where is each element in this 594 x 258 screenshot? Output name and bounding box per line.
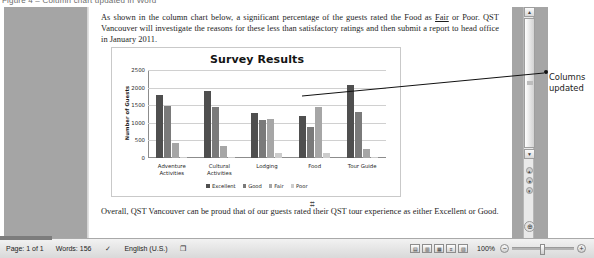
chart-x-tick-label: Food	[291, 163, 339, 170]
chart-bar	[323, 153, 330, 158]
paragraph-top-part1: As shown in the column chart below, a si…	[101, 13, 435, 22]
macro-recording-icon[interactable]: ❐	[174, 245, 192, 253]
view-button-full-screen-reading[interactable]: ▥	[422, 244, 432, 253]
chart-y-axis-title: Number of Guests	[124, 78, 130, 148]
select-browse-object-icon[interactable]: ●	[526, 177, 533, 184]
chart-legend-swatch	[243, 184, 247, 188]
view-button-web-layout[interactable]: ▦	[434, 244, 444, 253]
chart-bar-group	[196, 70, 244, 158]
chart-x-tick-label: Lodging	[243, 163, 291, 170]
chart-legend-swatch	[269, 184, 273, 188]
chart-legend-label: Excellent	[212, 183, 236, 189]
view-mode-buttons[interactable]: ▤▥▦≡▧	[410, 244, 472, 253]
chart-legend-label: Poor	[296, 183, 307, 189]
chart-bar	[172, 143, 179, 158]
chart-bar	[259, 120, 266, 158]
status-language[interactable]: English (U.S.)	[118, 245, 173, 252]
paragraph-top-underlined: Fair	[435, 13, 449, 22]
chart-legend-item: Fair	[269, 183, 284, 189]
chart-x-tick-label: Tour Guide	[338, 163, 386, 170]
chart-bar	[156, 95, 163, 158]
chart-legend-label: Good	[248, 183, 262, 189]
chart-bar	[180, 157, 187, 158]
proofing-check-icon: ✓	[103, 244, 112, 253]
status-bar-left-tab	[0, 236, 52, 240]
scrollbar-end-button-icon[interactable]: ⊕	[524, 221, 535, 232]
chart-bar	[315, 107, 322, 158]
proofing-errors-icon[interactable]: ✓	[97, 244, 118, 253]
status-page-indicator[interactable]: Page: 1 of 1	[0, 245, 50, 252]
zoom-percentage-label[interactable]: 100%	[472, 245, 500, 252]
chart-legend-swatch	[206, 184, 210, 188]
chart-bar-group	[243, 70, 291, 158]
zoom-out-icon[interactable]: −	[500, 244, 509, 253]
left-gutter	[0, 7, 88, 238]
chart-bar	[363, 149, 370, 159]
status-word-count[interactable]: Words: 156	[50, 245, 98, 252]
chart-bar	[371, 157, 378, 158]
word-document-window: Figure 4 – Column chart updated in Word …	[0, 0, 594, 258]
scroll-down-arrow-icon[interactable]: ▼	[524, 149, 535, 159]
chart-legend: ExcellentGoodFairPoor	[112, 183, 402, 189]
figure-caption-strip: Figure 4 – Column chart updated in Word	[0, 0, 594, 7]
zoom-in-icon[interactable]: +	[577, 244, 586, 253]
chart-bar	[307, 127, 314, 158]
figure-caption-text: Figure 4 – Column chart updated in Word	[2, 0, 156, 5]
status-bar: Page: 1 of 1 Words: 156 ✓ English (U.S.)…	[0, 238, 594, 258]
chart-y-tick-label: 500	[135, 137, 145, 143]
chart-y-tick-label: 1500	[131, 102, 145, 108]
chart-y-tick-label: 0	[142, 155, 145, 161]
previous-page-icon[interactable]: ▴	[526, 167, 533, 174]
chart-bar	[299, 116, 306, 158]
chart-bar	[251, 113, 258, 158]
chart-legend-item: Poor	[291, 183, 308, 189]
chart-bar	[164, 106, 171, 158]
chart-bar	[267, 119, 274, 158]
zoom-slider-track[interactable]	[512, 247, 574, 250]
chart-y-tick-label: 1000	[131, 120, 145, 126]
document-page[interactable]: As shown in the column chart below, a si…	[88, 7, 512, 238]
vertical-scrollbar[interactable]: ▲ ▼ ▴ ● ▾ ⊕	[523, 7, 534, 238]
zoom-slider-handle[interactable]	[540, 244, 545, 255]
chart-bar	[220, 146, 227, 158]
view-button-draft[interactable]: ▧	[458, 244, 468, 253]
view-button-print-layout[interactable]: ▤	[410, 244, 420, 253]
chart-x-tick-label: Adventure Activities	[148, 163, 196, 177]
right-outer-white	[548, 7, 594, 238]
chart-bar	[204, 91, 211, 158]
chart-y-tick-label: 2000	[131, 85, 145, 91]
callout-label: Columns updated	[549, 72, 585, 94]
next-page-icon[interactable]: ▾	[526, 187, 533, 194]
chart-y-tick-label: 2500	[131, 67, 145, 73]
chart-bar	[275, 153, 282, 158]
paragraph-below-chart: Overall, QST Vancouver can be proud that…	[101, 207, 499, 218]
chart-bar	[355, 112, 362, 158]
chart-legend-swatch	[291, 184, 295, 188]
scroll-up-arrow-icon[interactable]: ▲	[524, 7, 535, 17]
paragraph-above-chart: As shown in the column chart below, a si…	[101, 13, 499, 45]
chart-legend-item: Excellent	[206, 183, 235, 189]
zoom-slider[interactable]: − +	[500, 244, 594, 253]
chart-legend-item: Good	[243, 183, 262, 189]
chart-legend-label: Fair	[274, 183, 283, 189]
chart-bar	[212, 107, 219, 158]
view-button-outline[interactable]: ≡	[446, 244, 456, 253]
left-gutter-shade	[4, 7, 88, 238]
chart-bar-group	[148, 70, 196, 158]
chart-x-tick-label: Cultural Activities	[196, 163, 244, 177]
browse-object-buttons[interactable]: ▴ ● ▾	[524, 167, 535, 194]
document-workspace: As shown in the column chart below, a si…	[0, 7, 594, 238]
callout-leader-line	[300, 60, 550, 100]
chart-bar	[228, 157, 235, 158]
